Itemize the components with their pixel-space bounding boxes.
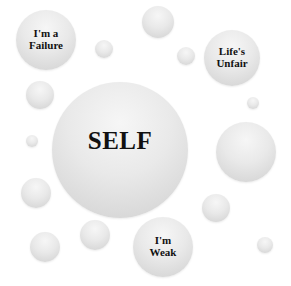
bubble-label-weak: I'm Weak <box>150 235 177 258</box>
bubble-small <box>257 237 273 253</box>
bubble-diagram: I'm a Failure Life's Unfair I'm Weak SEL… <box>0 0 291 286</box>
bubble-small <box>21 178 51 208</box>
bubble-medium <box>216 122 276 182</box>
self-label: SELF <box>88 128 153 154</box>
bubble-small <box>202 194 230 222</box>
bubble-im-a-failure: I'm a Failure <box>16 10 76 70</box>
bubble-self: SELF <box>52 82 188 218</box>
bubble-label-unfair: Life's Unfair <box>216 46 247 69</box>
bubble-small <box>247 97 259 109</box>
bubble-small <box>30 232 60 262</box>
bubble-small <box>142 6 174 38</box>
bubble-small <box>177 47 195 65</box>
bubble-small <box>95 40 113 58</box>
bubble-small <box>26 135 38 147</box>
bubble-label-failure: I'm a Failure <box>29 28 63 51</box>
bubble-small <box>26 81 54 109</box>
bubble-small <box>80 220 110 250</box>
bubble-im-weak: I'm Weak <box>133 217 193 277</box>
bubble-lifes-unfair: Life's Unfair <box>204 30 260 86</box>
